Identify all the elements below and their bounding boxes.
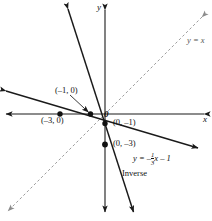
equation-numerator: 1 [151, 152, 154, 158]
y-axis-label: y [97, 3, 101, 12]
x-axis-label: x [203, 115, 207, 124]
label-line-y-equals-x: y = x [187, 36, 205, 45]
label-point-neg3-0: (–3, 0) [41, 116, 64, 125]
equation-denominator: 3 [151, 158, 154, 166]
label-inverse: Inverse [122, 169, 147, 178]
origin-label: 0 [104, 110, 109, 119]
equation-suffix: x – 1 [154, 153, 171, 163]
equation-prefix: y = – [133, 153, 151, 163]
callout-arrow-neg1-0 [70, 95, 89, 112]
point-0-neg3 [102, 142, 108, 148]
label-point-0-neg1: (0, –1) [113, 118, 136, 127]
line-inverse [68, 9, 134, 212]
graph-figure: y x 0 (–1, 0) (–3, 0) (0, –1) (0, –3) y … [0, 0, 212, 221]
label-point-neg1-0: (–1, 0) [55, 86, 78, 95]
equation-fraction: 13 [151, 152, 154, 166]
label-equation: y = –13x – 1 [133, 152, 171, 166]
point-neg1-0 [88, 111, 93, 116]
point-0-neg1 [102, 121, 107, 126]
line-function [6, 91, 198, 148]
label-point-0-neg3: (0, –3) [113, 139, 136, 148]
